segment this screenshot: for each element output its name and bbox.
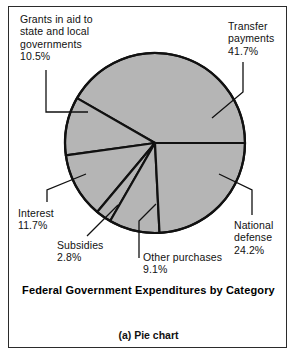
slice-label-subsidies-line1: Subsidies — [57, 239, 103, 251]
slice-label-subsidies: Subsidies 2.8% — [57, 239, 103, 264]
chart-title: Federal Government Expenditures by Categ… — [0, 284, 297, 296]
slice-label-defense-line2: defense — [234, 231, 273, 243]
slice-value-interest: 11.7% — [18, 219, 54, 231]
slice-value-subsidies: 2.8% — [57, 251, 103, 263]
slice-value-grants: 10.5% — [20, 50, 93, 62]
slice-label-other-purchases: Other purchases 9.1% — [143, 251, 222, 276]
slice-label-interest-line1: Interest — [18, 207, 54, 219]
pie-chart-area: Grants in aid to state and local governm… — [0, 0, 297, 359]
pie-slice-national-defense[interactable] — [155, 143, 245, 233]
slice-label-transfer-payments: Transfer payments 41.7% — [228, 20, 274, 57]
pie-slice-group — [65, 53, 245, 233]
slice-label-other-line1: Other purchases — [143, 251, 222, 263]
slice-label-defense-line1: National — [234, 219, 273, 231]
slice-value-other-purchases: 9.1% — [143, 263, 222, 275]
slice-label-interest: Interest 11.7% — [18, 207, 54, 232]
figure-caption: (a) Pie chart — [0, 329, 297, 341]
slice-label-transfer-line2: payments — [228, 32, 274, 44]
slice-value-national-defense: 24.2% — [234, 244, 273, 256]
slice-label-national-defense: National defense 24.2% — [234, 219, 273, 256]
slice-label-grants: Grants in aid to state and local governm… — [20, 13, 93, 62]
slice-label-grants-line2: state and local — [20, 25, 93, 37]
slice-value-transfer-payments: 41.7% — [228, 45, 274, 57]
slice-label-transfer-line1: Transfer — [228, 20, 274, 32]
slice-label-grants-line3: governments — [20, 38, 93, 50]
slice-label-grants-line1: Grants in aid to — [20, 13, 93, 25]
figure-container: Grants in aid to state and local governm… — [0, 0, 297, 359]
